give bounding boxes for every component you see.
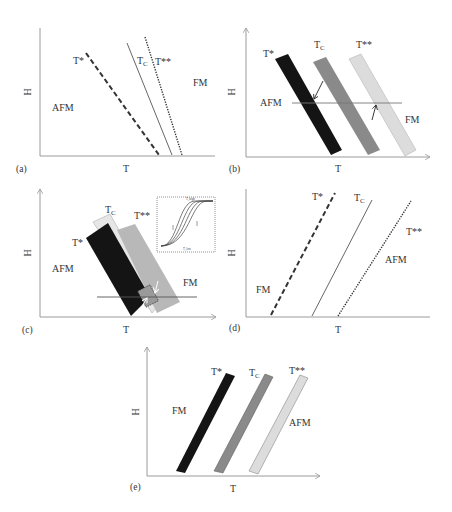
t-star-label: T*	[263, 48, 274, 59]
x-axis-label: T	[230, 483, 236, 494]
tc-line	[312, 200, 372, 316]
t-double-star-label: T**	[406, 226, 422, 237]
t-star-line	[86, 53, 159, 155]
panel-d: H T (d) T* TC T** FM AFM	[226, 189, 430, 335]
region-fm: FM	[183, 277, 198, 288]
tc-label: TC	[105, 204, 116, 217]
panel-tag: (a)	[16, 164, 27, 175]
tc-label: TC	[354, 192, 365, 205]
region-afm: AFM	[52, 263, 74, 274]
arrow-up-icon	[372, 105, 376, 120]
region-afm: AFM	[52, 102, 74, 113]
region-fm: FM	[172, 405, 187, 416]
t-star-label: T*	[73, 55, 84, 66]
t-star-label: T*	[211, 366, 222, 377]
tc-label: TC	[137, 55, 148, 68]
svg-text:T_low: T_low	[183, 247, 192, 251]
y-axis-label: H	[22, 249, 33, 256]
region-fm: FM	[193, 77, 208, 88]
panel-e: H T (e) T* TC T** FM AFM	[130, 347, 320, 494]
t-double-star-label: T**	[356, 39, 372, 50]
region-fm: FM	[405, 114, 420, 125]
tc-label: TC	[314, 39, 325, 52]
hysteresis-inset: T_high T_low	[157, 197, 215, 252]
region-afm: AFM	[260, 97, 282, 108]
panel-tag: (c)	[22, 325, 33, 336]
phase-diagram-figure: H T (a) T* TC T** AFM FM H T (b) T* TC T…	[0, 0, 452, 512]
region-afm: AFM	[289, 417, 311, 428]
x-axis-label: T	[123, 163, 129, 174]
t-double-star-line	[145, 37, 182, 155]
panel-tag: (d)	[229, 323, 240, 334]
y-axis-label: H	[22, 88, 33, 95]
arrow-down-icon	[314, 81, 323, 99]
t-double-star-label: T**	[289, 365, 305, 376]
tc-label: TC	[249, 367, 260, 380]
panel-a: H T (a) T* TC T** AFM FM	[16, 28, 215, 175]
region-fm: FM	[256, 284, 271, 295]
panel-tag: (b)	[229, 164, 240, 175]
svg-text:T_high: T_high	[186, 197, 195, 201]
panel-b: H T (b) T* TC T** AFM FM	[226, 28, 430, 175]
x-axis-label: T	[335, 324, 341, 335]
t-double-star-label: T**	[155, 56, 171, 67]
panel-c: H T (c) T_high T_low T* TC T** AFM F	[22, 189, 216, 336]
y-axis-label: H	[226, 249, 237, 256]
t-double-star-label: T**	[134, 210, 150, 221]
y-axis-label: H	[130, 408, 141, 415]
t-star-label: T*	[312, 191, 323, 202]
t-double-star-band	[349, 54, 416, 156]
t-star-line	[271, 193, 335, 315]
x-axis-label: T	[123, 324, 129, 335]
t-star-label: T*	[72, 237, 83, 248]
y-axis-label: H	[226, 88, 237, 95]
panel-tag: (e)	[130, 482, 141, 493]
region-afm: AFM	[385, 254, 407, 265]
x-axis-label: T	[335, 163, 341, 174]
